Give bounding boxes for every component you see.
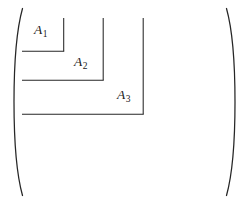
block-label-a1-subscript: 1 [43, 29, 48, 39]
block-matrix-figure: A1 A2 A3 [0, 0, 251, 202]
block-label-a3-base: A [117, 87, 125, 102]
right-parenthesis-icon [227, 9, 236, 196]
block-label-a1-base: A [34, 22, 42, 37]
block-label-a3-subscript: 3 [126, 94, 131, 104]
block-label-a2-subscript: 2 [83, 61, 88, 71]
block-label-a3: A3 [117, 88, 130, 102]
block-label-a2: A2 [74, 55, 87, 69]
block-label-a1: A1 [34, 23, 47, 37]
block-label-a2-base: A [74, 54, 82, 69]
left-parenthesis-icon [14, 9, 23, 196]
